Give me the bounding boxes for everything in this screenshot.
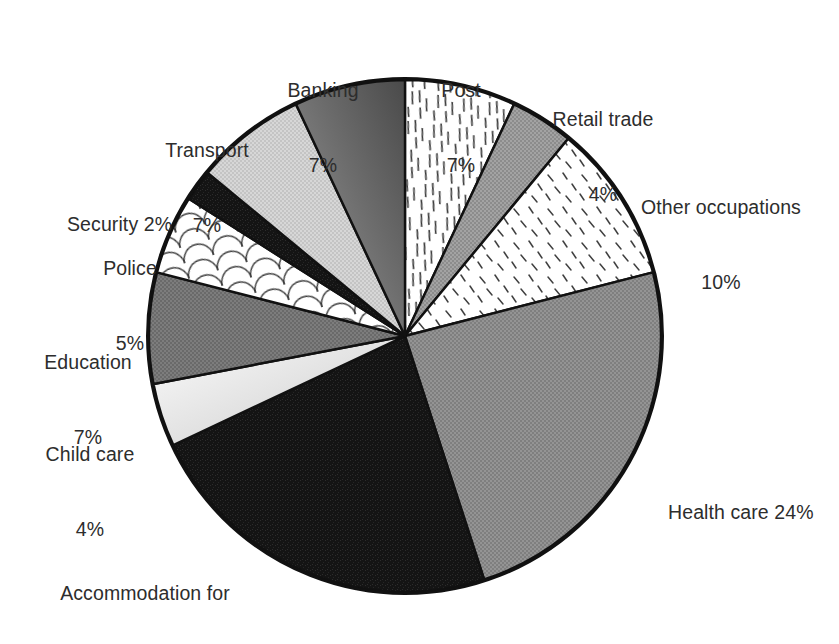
slice-label-retail-trade-name: Retail trade <box>521 107 685 132</box>
slice-label-transport: Transport 7% <box>142 88 272 288</box>
slice-label-banking-value: 7% <box>258 153 388 178</box>
slice-label-transport-name: Transport <box>142 138 272 163</box>
slice-label-post: Post 7% <box>412 28 510 228</box>
slice-label-other-occupations: Other occupations 10% <box>605 145 837 345</box>
slice-label-post-name: Post <box>412 78 510 103</box>
slice-label-police-value: 5% <box>82 331 178 356</box>
slice-label-post-value: 7% <box>412 153 510 178</box>
slice-label-health-care: Health care 24% <box>668 450 839 575</box>
slice-label-transport-value: 7% <box>142 213 272 238</box>
pie-chart: Banking 7% Post 7% Retail trade 4% Other… <box>0 0 839 644</box>
slice-label-banking: Banking 7% <box>258 28 388 228</box>
slice-label-banking-name: Banking <box>258 78 388 103</box>
slice-label-other-occupations-name: Other occupations <box>605 195 837 220</box>
slice-label-health-care-text: Health care 24% <box>668 500 839 525</box>
slice-label-child-care-value: 4% <box>24 517 156 542</box>
slice-label-education-value: 7% <box>24 425 152 450</box>
slice-label-other-occupations-value: 10% <box>605 270 837 295</box>
